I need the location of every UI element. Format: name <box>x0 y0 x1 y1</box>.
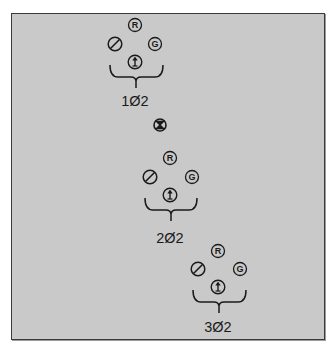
g-pin-icon: G <box>149 38 162 51</box>
slash-pin-icon <box>143 170 157 184</box>
group-1: R G 1Ø2 <box>108 19 163 110</box>
r-pin-icon: R <box>164 152 177 165</box>
arrow-pin-icon <box>211 280 225 294</box>
diagram-canvas: R G 1Ø2 R <box>0 0 335 351</box>
g-pin-letter: G <box>188 172 195 182</box>
r-pin-letter: R <box>132 20 139 30</box>
arrow-pin-icon <box>128 55 142 69</box>
group-label: 1Ø2 <box>121 93 148 109</box>
crossed-circle-icon <box>154 119 166 131</box>
g-pin-letter: G <box>236 264 243 274</box>
r-pin-icon: R <box>129 19 142 32</box>
group-label: 3Ø2 <box>204 319 231 335</box>
slash-pin-icon <box>108 37 122 51</box>
r-pin-letter: R <box>215 246 222 256</box>
group-label: 2Ø2 <box>156 230 183 246</box>
g-pin-icon: G <box>234 263 247 276</box>
slash-pin-icon <box>191 262 205 276</box>
group-2: R G 2Ø2 <box>143 152 198 247</box>
group-3: R G 3Ø2 <box>191 245 246 336</box>
arrow-pin-icon <box>163 188 177 202</box>
r-pin-icon: R <box>212 245 225 258</box>
r-pin-letter: R <box>167 153 174 163</box>
g-pin-icon: G <box>186 171 199 184</box>
g-pin-letter: G <box>151 39 158 49</box>
